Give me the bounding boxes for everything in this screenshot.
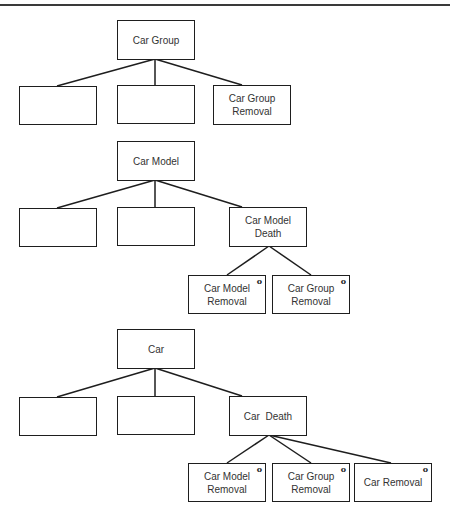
connector-line [57, 368, 155, 397]
selection-marker: o [257, 277, 262, 285]
connector-line [155, 59, 242, 85]
selection-marker: o [341, 277, 346, 285]
connector-line [57, 180, 155, 208]
node-empty [19, 397, 97, 436]
node-label: Car [148, 343, 164, 356]
connector-line [155, 368, 242, 396]
node-car-group-removal: Car Group Removal o [272, 275, 350, 314]
node-car-group-removal: Car Group Removal o [272, 463, 350, 502]
node-label: Car Group [133, 34, 180, 47]
connector-line [269, 246, 311, 275]
node-label: Car Removal [364, 476, 422, 489]
node-car-group: Car Group [117, 20, 195, 60]
node-label: Car Model Removal [204, 282, 250, 308]
selection-marker: o [257, 465, 262, 473]
connector-lines [0, 0, 450, 516]
node-label: Car Group Removal [288, 282, 335, 308]
node-label: Car Group Removal [288, 470, 335, 496]
selection-marker: o [341, 465, 346, 473]
node-label: Car Model [133, 155, 179, 168]
node-label: Car Death [244, 410, 292, 423]
connector-line [269, 435, 391, 463]
node-empty [19, 208, 97, 247]
node-empty [117, 396, 195, 435]
connector-line [57, 59, 155, 86]
node-empty [117, 207, 195, 246]
node-empty [19, 86, 97, 125]
node-label: Car Model Death [233, 214, 303, 240]
selection-marker: o [423, 465, 428, 473]
node-label: Car Group Removal [229, 92, 276, 118]
node-car-group-removal: Car Group Removal [213, 85, 291, 125]
node-empty [117, 85, 195, 124]
node-car-death: Car Death [229, 396, 307, 436]
node-car-removal: Car Removal o [354, 463, 432, 502]
connector-line [155, 180, 242, 207]
connector-line [227, 435, 269, 463]
node-label: Car Model Removal [204, 470, 250, 496]
node-car: Car [117, 329, 195, 369]
node-car-model: Car Model [117, 141, 195, 181]
connector-line [227, 246, 269, 275]
node-car-model-removal: Car Model Removal o [188, 463, 266, 502]
node-car-model-removal: Car Model Removal o [188, 275, 266, 314]
node-car-model-death: Car Model Death [229, 207, 307, 247]
